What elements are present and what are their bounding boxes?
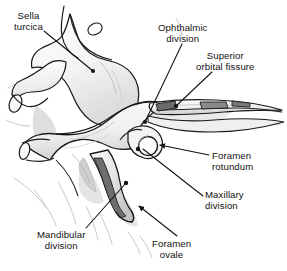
arrow-foramen-ovale	[139, 206, 177, 236]
label-superior-orbital-fissure: Superior orbital fissure	[196, 50, 255, 73]
label-foramen-ovale-line2: ovale	[152, 249, 191, 260]
label-maxillary-division-line2: division	[205, 200, 244, 211]
label-sella-turcica-line2: turcica	[14, 21, 43, 32]
dot-mandibular-division	[124, 181, 128, 185]
label-ophthalmic-division-line2: division	[158, 33, 208, 44]
label-foramen-ovale: Foramen ovale	[152, 238, 191, 261]
arrow-foramen-rotundum	[160, 145, 209, 155]
clinoid-hollow	[86, 21, 104, 38]
label-foramen-rotundum-line1: Foramen	[212, 150, 253, 161]
label-mandibular-division-line2: division	[37, 240, 85, 251]
dot-ophthalmic-division	[143, 120, 147, 124]
label-sella-turcica-line1: Sella	[14, 10, 43, 21]
label-sella-turcica: Sella turcica	[14, 10, 43, 33]
label-mandibular-division: Mandibular division	[37, 229, 85, 252]
dot-sella-turcica	[91, 69, 95, 73]
pterygoid-outline	[56, 160, 78, 196]
label-maxillary-division-line1: Maxillary	[205, 189, 244, 200]
label-foramen-ovale-line1: Foramen	[152, 238, 191, 249]
anatomy-figure: Sella turcica Ophthalmic division Superi…	[0, 0, 287, 271]
leader-maxillary-division	[143, 149, 203, 196]
label-superior-orbital-fissure-line1: Superior	[196, 50, 255, 61]
cut-tube-process	[7, 61, 66, 114]
label-maxillary-division: Maxillary division	[205, 189, 244, 212]
label-superior-orbital-fissure-line2: orbital fissure	[196, 61, 255, 72]
label-mandibular-division-line1: Mandibular	[37, 229, 85, 240]
label-foramen-rotundum: Foramen rotundum	[212, 150, 253, 173]
label-foramen-rotundum-line2: rotundum	[212, 161, 253, 172]
dot-maxillary-division	[136, 147, 140, 151]
label-ophthalmic-division-line1: Ophthalmic	[158, 22, 208, 33]
label-ophthalmic-division: Ophthalmic division	[158, 22, 208, 45]
dot-superior-orbital-fissure	[174, 104, 178, 108]
